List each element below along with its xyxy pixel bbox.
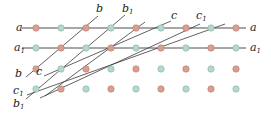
teal-point xyxy=(108,66,114,72)
line-c1 xyxy=(27,24,225,95)
red-point xyxy=(83,66,89,72)
label-a1: a1 xyxy=(14,41,25,55)
teal-point xyxy=(58,25,64,31)
red-point xyxy=(208,45,214,51)
teal-point xyxy=(108,25,114,31)
red-point xyxy=(133,66,139,72)
label-c: c xyxy=(171,9,177,22)
red-point xyxy=(133,25,139,31)
red-point xyxy=(108,45,114,51)
label-c: c xyxy=(36,65,42,78)
teal-point xyxy=(183,86,189,92)
teal-point xyxy=(133,45,139,51)
teal-point xyxy=(158,66,164,72)
red-point xyxy=(58,45,64,51)
label-b1: b1 xyxy=(122,2,134,16)
red-point xyxy=(158,86,164,92)
teal-point xyxy=(133,86,139,92)
lattice-diagram: aa1aa1bb1cc1bcc1b1 xyxy=(0,0,271,119)
label-a: a xyxy=(250,21,257,34)
red-point xyxy=(158,45,164,51)
teal-point xyxy=(83,45,89,51)
teal-point xyxy=(158,25,164,31)
label-a: a xyxy=(16,21,23,34)
line-extra2 xyxy=(45,22,145,96)
red-point xyxy=(208,86,214,92)
teal-point xyxy=(233,86,239,92)
label-b: b xyxy=(15,67,22,80)
teal-point xyxy=(208,25,214,31)
label-b1: b1 xyxy=(13,97,25,111)
teal-point xyxy=(83,86,89,92)
red-point xyxy=(233,66,239,72)
red-point xyxy=(33,25,39,31)
teal-point xyxy=(233,45,239,51)
line-extra1 xyxy=(40,24,200,98)
red-point xyxy=(83,25,89,31)
red-point xyxy=(183,25,189,31)
label-c1: c1 xyxy=(196,9,207,23)
red-point xyxy=(183,66,189,72)
red-point xyxy=(58,86,64,92)
diagram-canvas: aa1aa1bb1cc1bcc1b1 xyxy=(0,0,271,119)
teal-point xyxy=(208,66,214,72)
teal-point xyxy=(58,66,64,72)
teal-point xyxy=(183,45,189,51)
label-c1: c1 xyxy=(13,84,24,98)
label-a1: a1 xyxy=(250,41,261,55)
teal-point xyxy=(33,45,39,51)
label-b: b xyxy=(96,2,103,15)
teal-point xyxy=(33,86,39,92)
red-point xyxy=(233,25,239,31)
red-point xyxy=(108,86,114,92)
